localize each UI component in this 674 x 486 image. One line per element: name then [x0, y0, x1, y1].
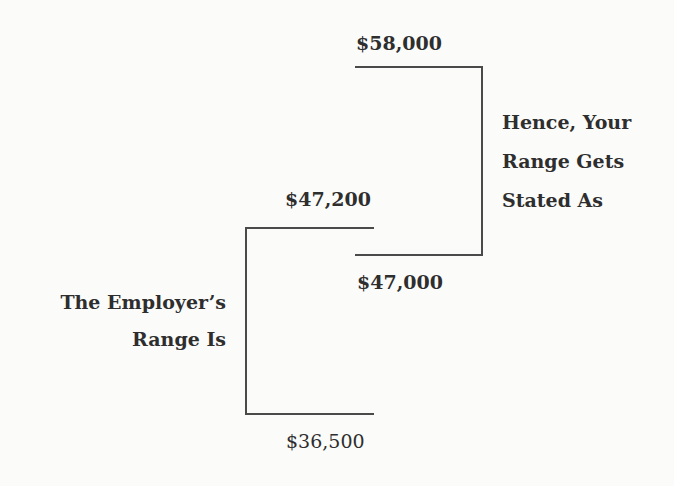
your-range-top-line: [355, 66, 483, 68]
your-range-bottom-line: [355, 254, 483, 256]
your-range-caption-line-2: Range Gets: [502, 150, 624, 172]
employer-range-top-line: [245, 227, 374, 229]
your-range-low-label: $47,000: [357, 271, 443, 293]
your-range-caption-line-1: Hence, Your: [502, 111, 631, 133]
employer-range-vertical-line: [245, 227, 247, 415]
employer-range-high-label: $47,200: [285, 188, 371, 210]
employer-range-low-label: $36,500: [286, 430, 365, 452]
employer-range-bottom-line: [245, 413, 374, 415]
your-range-high-label: $58,000: [356, 32, 442, 54]
your-range-caption-line-3: Stated As: [502, 189, 603, 211]
employer-range-caption-line-1: The Employer’s: [60, 291, 226, 313]
your-range-vertical-line: [481, 66, 483, 256]
employer-range-caption-line-2: Range Is: [132, 328, 226, 350]
